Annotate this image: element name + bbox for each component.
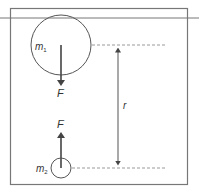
gravitation-diagram: m1 F r F m2 (0, 0, 199, 193)
distance-label: r (123, 100, 127, 111)
force-label-bottom: F (57, 118, 65, 130)
frame-box (11, 9, 188, 185)
force-label-top: F (57, 87, 65, 99)
mass1-label: m1 (35, 41, 47, 53)
mass2-label: m2 (36, 163, 48, 175)
